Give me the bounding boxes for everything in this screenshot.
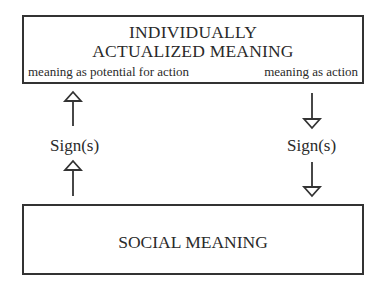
arrow-up-icon [65, 161, 81, 196]
arrow-down-icon [304, 162, 320, 196]
social-meaning-box: SOCIAL MEANING [22, 204, 364, 275]
right-signs-label: Sign(s) [287, 136, 336, 156]
arrow-down-icon [304, 93, 320, 128]
arrow-up-icon [65, 92, 81, 126]
left-signs-label: Sign(s) [50, 136, 99, 156]
social-meaning-label: SOCIAL MEANING [24, 232, 362, 252]
